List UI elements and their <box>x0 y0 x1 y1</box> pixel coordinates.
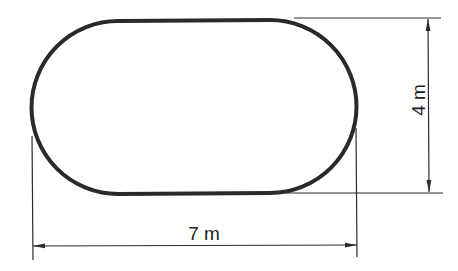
width-dimension-line <box>33 245 357 246</box>
height-label: 4 m <box>408 84 429 116</box>
extension-line-left <box>32 136 33 260</box>
stadium-shape <box>32 20 357 194</box>
width-label: 7 m <box>188 223 220 244</box>
diagram-canvas: 7 m 4 m <box>0 0 458 271</box>
extension-line-right <box>356 128 357 257</box>
